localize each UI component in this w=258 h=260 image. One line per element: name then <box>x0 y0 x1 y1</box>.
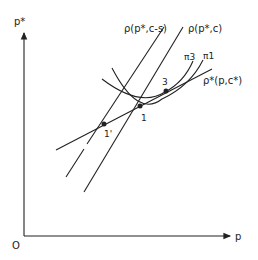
label-point-1: 1 <box>141 113 147 123</box>
point-1 <box>138 104 143 109</box>
label-point-3: 3 <box>162 77 168 87</box>
point-3 <box>164 89 169 94</box>
reaction-function-diagram: p* p O ρ(p*,c-s) ρ(p*,c) ρ*(p,c*) π3 π1 … <box>0 0 258 260</box>
curve-rho-c-minus-s <box>87 27 164 144</box>
curve-rho-c-minus-s-lower <box>66 149 84 177</box>
point-1-prime <box>102 122 107 127</box>
label-pi1: π1 <box>203 51 214 61</box>
label-rho-c-minus-s: ρ(p*,c-s) <box>124 23 167 34</box>
label-rho-star: ρ*(p,c*) <box>203 75 242 86</box>
curve-pi3 <box>102 61 193 98</box>
label-rho-c: ρ(p*,c) <box>188 23 222 34</box>
label-pi3: π3 <box>184 52 195 62</box>
x-axis-label: p <box>235 231 241 242</box>
origin-label: O <box>12 240 20 251</box>
y-axis-label: p* <box>14 16 25 27</box>
label-point-1-prime: 1' <box>104 129 112 139</box>
